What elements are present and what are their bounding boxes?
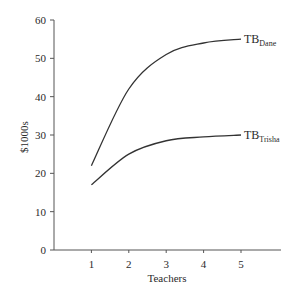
x-tick-label: 1 — [89, 258, 95, 270]
line-chart: 0102030405060 12345 TBDaneTBTrisha Teach… — [0, 0, 303, 299]
x-tick-label: 3 — [163, 258, 169, 270]
x-tick-label: 5 — [238, 258, 244, 270]
x-tick-label: 4 — [201, 258, 207, 270]
x-tick-label: 2 — [126, 258, 132, 270]
series-line-dane — [91, 39, 241, 166]
series-label-trisha: TBTrisha — [244, 128, 280, 144]
y-tick-label: 50 — [35, 52, 47, 64]
y-axis-label: $1000s — [18, 121, 30, 153]
y-tick-label: 60 — [35, 14, 47, 26]
y-tick-label: 10 — [35, 206, 47, 218]
y-tick-label: 40 — [35, 91, 47, 103]
series-label-dane: TBDane — [244, 32, 277, 48]
y-tick-label: 20 — [35, 167, 47, 179]
x-axis: 12345 — [54, 250, 281, 270]
series-group: TBDaneTBTrisha — [91, 32, 280, 185]
y-tick-label: 30 — [35, 129, 47, 141]
y-tick-label: 0 — [41, 244, 47, 256]
y-axis: 0102030405060 — [35, 14, 54, 256]
series-line-trisha — [91, 135, 241, 185]
x-axis-label: Teachers — [148, 272, 187, 284]
